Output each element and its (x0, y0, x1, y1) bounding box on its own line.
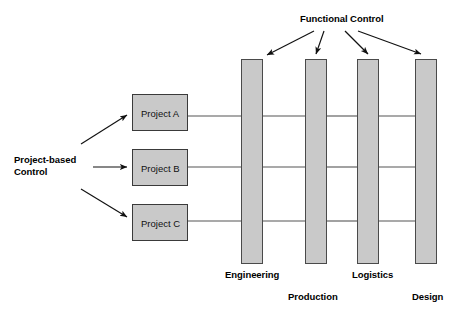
project-box-c-label: Project C (141, 218, 180, 229)
arrow-to-design (358, 31, 421, 54)
function-column-logistics[interactable] (357, 59, 379, 264)
arrow-to-project-c (81, 189, 127, 217)
arrow-to-engineering (267, 31, 314, 55)
functional-control-title: Functional Control (300, 13, 384, 25)
matrix-organization-diagram: Functional Control Project-based Control… (0, 0, 461, 315)
arrow-to-logistics (345, 31, 368, 54)
function-column-engineering[interactable] (241, 59, 263, 264)
function-label-logistics: Logistics (352, 269, 393, 281)
project-box-b-label: Project B (141, 163, 180, 174)
function-column-design[interactable] (415, 59, 437, 264)
function-label-design: Design (412, 291, 443, 303)
project-control-arrows (81, 115, 127, 217)
function-label-engineering: Engineering (225, 269, 279, 281)
project-based-control-title-line2: Control (14, 166, 47, 178)
project-box-a-label: Project A (141, 108, 179, 119)
arrow-to-project-a (81, 115, 127, 144)
functional-control-arrows (267, 31, 421, 55)
arrow-to-production (316, 31, 324, 54)
project-based-control-title-line1: Project-based (14, 154, 76, 166)
function-label-production: Production (288, 291, 338, 303)
function-column-production[interactable] (305, 59, 327, 264)
